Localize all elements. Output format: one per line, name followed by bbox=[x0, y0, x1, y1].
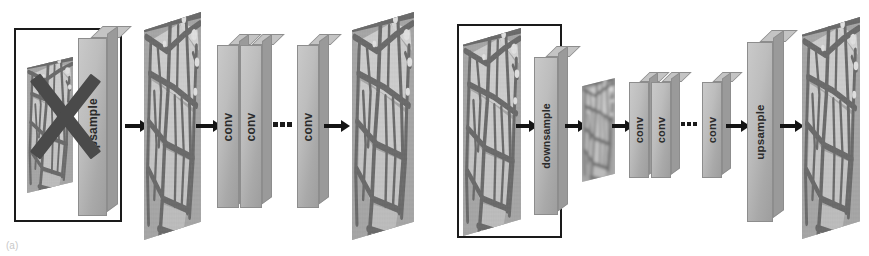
arrow-head bbox=[341, 120, 350, 132]
panel-a-conv-block-1: conv bbox=[217, 45, 239, 208]
arrow-shaft bbox=[125, 124, 141, 128]
dot bbox=[287, 122, 292, 127]
arrow-shaft bbox=[196, 124, 214, 128]
panel-b-conv-block-n: conv bbox=[702, 82, 722, 178]
dot bbox=[681, 122, 685, 126]
arrow-shaft bbox=[726, 124, 742, 128]
butterfly-wing-art bbox=[352, 12, 414, 240]
panel-a-upsampled-image bbox=[144, 12, 201, 240]
dot bbox=[687, 122, 691, 126]
architecture-figure: upsample con bbox=[0, 0, 869, 256]
slab-front-face bbox=[297, 45, 319, 208]
panel-b-downsampled-image bbox=[582, 78, 615, 182]
butterfly-wing-art bbox=[463, 28, 521, 236]
dot bbox=[693, 122, 697, 126]
butterfly-wing-art bbox=[802, 17, 860, 239]
panel-b-ellipsis bbox=[681, 122, 697, 126]
slab-front-face bbox=[702, 82, 722, 178]
panel-b-output-image bbox=[802, 17, 860, 239]
slab-front-face bbox=[217, 45, 239, 208]
slab-side-face bbox=[262, 34, 272, 204]
panel-a-conv-block-n: conv bbox=[297, 45, 319, 208]
panel-b-upsample-block: upsample bbox=[747, 42, 773, 222]
arrow-shaft bbox=[516, 124, 530, 128]
panel-a-output-image bbox=[352, 12, 414, 240]
panel-b-arrow-5 bbox=[780, 119, 804, 133]
dot bbox=[273, 122, 278, 127]
panel-b-downsample-block: downsample bbox=[534, 57, 558, 215]
slab-side-face bbox=[671, 72, 680, 175]
arrow-shaft bbox=[612, 124, 626, 128]
panel-b-input-image bbox=[463, 28, 521, 236]
panel-a-ellipsis bbox=[273, 122, 292, 127]
panel-a: upsample con bbox=[0, 0, 434, 256]
butterfly-wing-art-lowres bbox=[582, 78, 615, 182]
panel-a-crossout-marker bbox=[24, 60, 108, 172]
arrow-shaft bbox=[324, 124, 342, 128]
butterfly-wing-art bbox=[144, 12, 201, 240]
slab-front-face bbox=[747, 42, 773, 222]
panel-b: downsample conv bbox=[434, 0, 869, 256]
arrow-shaft bbox=[780, 124, 796, 128]
slab-front-face bbox=[534, 57, 558, 215]
arrow-shaft bbox=[565, 124, 579, 128]
slab-front-face bbox=[240, 45, 262, 208]
panel-b-conv-block-2: conv bbox=[651, 82, 671, 178]
slab-front-face bbox=[651, 82, 671, 178]
slab-front-face bbox=[629, 82, 649, 178]
panel-b-conv-block-1: conv bbox=[629, 82, 649, 178]
panel-a-caption: (a) bbox=[6, 240, 18, 251]
slab-side-face bbox=[107, 26, 118, 212]
dot bbox=[280, 122, 285, 127]
panel-a-conv-block-2: conv bbox=[240, 45, 262, 208]
panel-a-arrow-3 bbox=[324, 119, 350, 133]
